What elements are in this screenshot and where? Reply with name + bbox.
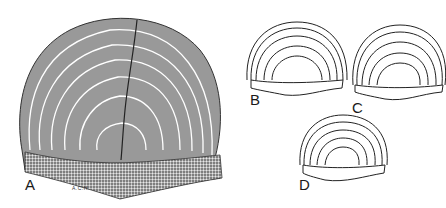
scale-d <box>300 115 387 181</box>
label-d: D <box>299 177 310 192</box>
scale-a <box>20 18 222 199</box>
scale-b <box>247 22 347 95</box>
figure: A A.C.H. B C D <box>0 0 446 208</box>
label-b: B <box>250 92 260 107</box>
scale-drawings <box>0 0 446 208</box>
label-a: A <box>25 177 35 192</box>
artist-signature: A.C.H. <box>72 185 90 191</box>
label-c: C <box>352 100 363 115</box>
scale-c <box>353 25 446 100</box>
